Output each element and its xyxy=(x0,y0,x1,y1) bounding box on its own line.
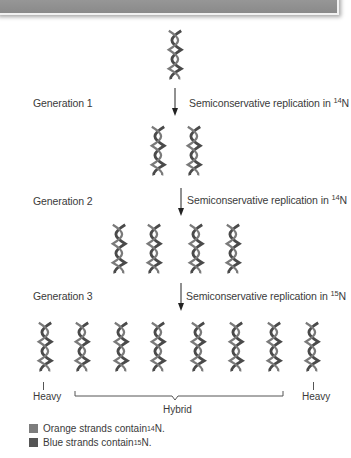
gen3-dna-helix-heavy xyxy=(302,320,322,374)
heavy-left-tick xyxy=(43,382,44,390)
heavy-right-tick xyxy=(313,382,314,390)
generation-1-step-label: Semiconservative replication in 14N xyxy=(189,97,349,109)
gen3-dna-helix-hybrid xyxy=(111,320,131,374)
gen2-dna-helix xyxy=(223,222,243,276)
gen1-dna-helix xyxy=(184,124,204,178)
generation-1-label: Generation 1 xyxy=(33,97,93,109)
heavy-right-label: Heavy xyxy=(302,391,330,402)
generation-3-step-label: Semiconservative replication in 15N xyxy=(186,290,346,302)
gen3-dna-helix-hybrid xyxy=(72,320,92,374)
arrow-down-icon xyxy=(177,188,185,216)
header-banner xyxy=(0,0,339,15)
legend-swatch-blue xyxy=(29,438,38,447)
arrow-down-icon xyxy=(177,283,185,311)
generation-2-step-label: Semiconservative replication in 14N xyxy=(187,194,347,206)
gen3-dna-helix-hybrid xyxy=(148,320,168,374)
gen2-dna-helix xyxy=(144,222,164,276)
gen2-dna-helix xyxy=(109,222,129,276)
heavy-left-label: Heavy xyxy=(33,391,61,402)
legend-item-14n: Orange strands contain 14N. xyxy=(29,423,165,434)
generation-2-label: Generation 2 xyxy=(33,195,93,207)
gen2-dna-helix xyxy=(186,222,206,276)
gen3-dna-helix-hybrid xyxy=(226,320,246,374)
parent-dna-helix xyxy=(165,28,185,82)
hybrid-bracket xyxy=(74,390,284,402)
generation-3-label: Generation 3 xyxy=(33,290,93,302)
gen3-dna-helix-hybrid xyxy=(264,320,284,374)
hybrid-label: Hybrid xyxy=(163,404,192,415)
legend-swatch-orange xyxy=(29,424,38,433)
gen3-dna-helix-heavy xyxy=(35,320,55,374)
gen1-dna-helix xyxy=(148,124,168,178)
arrow-down-icon xyxy=(171,88,179,116)
legend-item-15n: Blue strands contain 15N. xyxy=(29,437,151,448)
gen3-dna-helix-hybrid xyxy=(188,320,208,374)
